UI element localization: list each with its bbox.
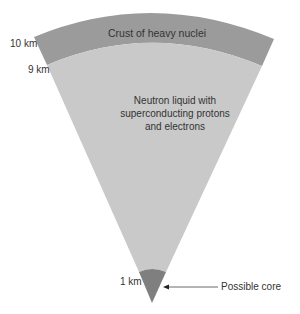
arrow-head-icon bbox=[163, 285, 169, 290]
liquid-label-line-1: Neutron liquid with bbox=[100, 94, 250, 107]
liquid-label-line-3: and electrons bbox=[100, 120, 250, 133]
liquid-label-line-2: superconducting protons bbox=[100, 107, 250, 120]
crust-label: Crust of heavy nuclei bbox=[108, 27, 206, 39]
neutron-liquid-layer bbox=[47, 43, 262, 272]
core-region bbox=[139, 269, 166, 303]
radius-label-1km: 1 km bbox=[120, 276, 142, 287]
neutron-liquid-label: Neutron liquid with superconducting prot… bbox=[100, 94, 250, 133]
radius-label-10km: 10 km bbox=[10, 38, 37, 49]
radius-label-9km: 9 km bbox=[28, 64, 50, 75]
possible-core-label: Possible core bbox=[221, 281, 281, 292]
neutron-star-wedge bbox=[0, 0, 300, 314]
